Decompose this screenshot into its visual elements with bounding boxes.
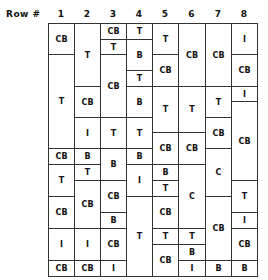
grid-cell: T xyxy=(152,86,179,133)
grid-cell: T xyxy=(74,23,101,87)
grid-cell: B xyxy=(231,260,258,277)
grid-cell: I xyxy=(48,228,75,261)
grid-cell: B xyxy=(100,212,127,229)
grid-cell: C xyxy=(178,164,206,229)
grid-cell: CB xyxy=(205,117,232,149)
grid-cell: I xyxy=(74,117,101,149)
grid-cell: CB xyxy=(152,132,179,165)
grid-cell: B xyxy=(178,244,206,261)
grid-cell: T xyxy=(74,164,101,181)
grid-cell: CB xyxy=(74,86,101,118)
grid-cell: CB xyxy=(100,228,127,261)
grid-cell: T xyxy=(48,54,75,149)
grid-cell: I xyxy=(231,86,258,102)
grid-cell: CB xyxy=(152,196,179,229)
grid-cell: T xyxy=(126,196,153,277)
grid-cell: T xyxy=(126,70,153,87)
grid-cell: CB xyxy=(231,101,258,181)
grid-cell: I xyxy=(231,23,258,55)
grid-cell: B xyxy=(74,148,101,165)
grid-cell: T xyxy=(152,23,179,55)
grid-cell: B xyxy=(126,39,153,71)
grid-cell: T xyxy=(48,164,75,197)
grid-cell: I xyxy=(231,212,258,229)
grid-cell: C xyxy=(205,148,232,197)
grid-cell: T xyxy=(178,228,206,245)
grid-cell: CB xyxy=(48,148,75,165)
grid-cell: B xyxy=(126,86,153,118)
grid-cell: B xyxy=(100,148,127,181)
grid-cell: T xyxy=(152,228,179,245)
grid-cell: I xyxy=(178,260,206,277)
grid-cell: T xyxy=(205,86,232,118)
grid-cell: CB xyxy=(231,228,258,261)
grid-cell: CB xyxy=(205,196,232,261)
grid-cell: T xyxy=(100,117,127,149)
grid-cell: T xyxy=(152,180,179,197)
grid-cell: T xyxy=(100,39,127,55)
grid-cell: CB xyxy=(100,23,127,40)
grid-cell: CB xyxy=(48,196,75,229)
grid-cell: B xyxy=(152,164,179,181)
grid-cell: CB xyxy=(178,23,206,87)
grid-cell: I xyxy=(74,228,101,261)
grid-cell: CB xyxy=(48,23,75,55)
grid-cell: CB xyxy=(205,23,232,87)
grid-cell: I xyxy=(100,260,127,277)
grid-cell: CB xyxy=(178,132,206,165)
grid-cell: B xyxy=(126,148,153,165)
grid-cell: CB xyxy=(231,54,258,87)
grid-cell: CB xyxy=(100,180,127,213)
grid-cell: T xyxy=(126,117,153,149)
seating-grid: CBTCBTCBICBTCBIBTCBICBCBTCBTBCBBCBITBTBT… xyxy=(0,0,268,280)
grid-cell: CB xyxy=(74,180,101,229)
grid-cell: T xyxy=(178,86,206,133)
grid-cell: CB xyxy=(100,54,127,118)
grid-cell: T xyxy=(126,23,153,40)
grid-cell: I xyxy=(126,164,153,197)
grid-cell: CB xyxy=(74,260,101,277)
grid-cell: B xyxy=(205,260,232,277)
grid-cell: CB xyxy=(152,244,179,277)
grid-cell: CB xyxy=(152,54,179,87)
grid-cell: CB xyxy=(48,260,75,277)
grid-cell: T xyxy=(231,180,258,213)
